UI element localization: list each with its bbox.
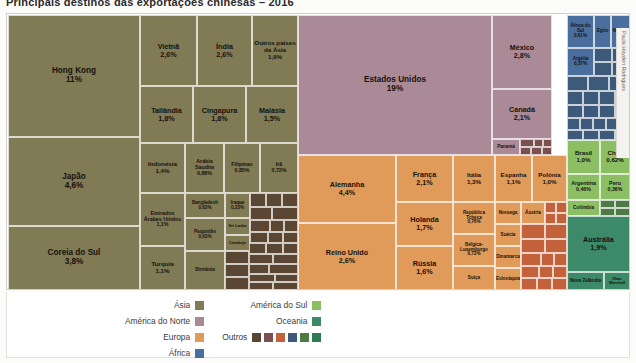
treemap-tile-iraque[interactable]: Iraque0,23% [225,193,250,218]
treemap-tile-af-o23[interactable] [599,130,615,140]
treemap-tile-paquistao[interactable]: Paquistão0,63% [185,218,225,251]
treemap-tile-sa-o1[interactable] [600,200,615,208]
treemap-tile-camboja[interactable]: Camboja [225,235,250,251]
treemap-tile-eu-o9[interactable] [521,253,541,266]
treemap-tile-suecia[interactable]: Suécia [495,224,521,246]
treemap-tile-af-o18[interactable] [593,118,606,130]
treemap-tile-asia-o8[interactable] [284,220,298,232]
treemap-tile-asia-o10[interactable] [268,232,283,243]
treemap-tile-af-o5[interactable] [567,76,588,91]
treemap-tile-suica[interactable]: Suíça [453,266,495,290]
treemap-tile-filipinas[interactable]: Filipinas0,85% [224,143,260,193]
treemap-tile-austria[interactable]: Áustria [521,202,545,224]
treemap-tile-eu-o3[interactable] [545,213,556,224]
treemap-tile-dinamarca[interactable]: Dinamarca [495,246,521,268]
treemap-tile-asia-o11[interactable] [283,232,298,243]
treemap-tile-eu-o16[interactable] [537,278,552,290]
treemap-tile-af-o1[interactable] [594,48,612,62]
treemap-tile-canada[interactable]: Canadá2,1% [492,89,552,139]
treemap-tile-eu-o14[interactable] [553,266,567,278]
treemap-tile-australia[interactable]: Austrália1,9% [567,216,630,272]
treemap-tile-polonia[interactable]: Polônia1,0% [532,155,567,202]
treemap-tile-asia-o21[interactable] [269,264,298,274]
treemap-tile-asia-o23[interactable] [275,274,298,282]
treemap-tile-noruega[interactable]: Noruega [495,202,521,224]
treemap-tile-belgica[interactable]: Bélgica-Luxemburgo0,73% [453,234,495,266]
treemap-tile-asia-o15[interactable] [283,243,298,254]
treemap-tile-holanda[interactable]: Holanda1,7% [396,202,453,246]
treemap-tile-eu-o15[interactable] [521,278,537,290]
treemap-tile-argentina[interactable]: Argentina0,46% [567,174,600,200]
treemap-tile-na-o2[interactable] [534,139,543,147]
treemap-tile-asia-o25[interactable] [273,282,298,290]
treemap-tile-asia-o12[interactable] [225,251,249,264]
treemap-tile-argelia[interactable]: Argélia0,37% [567,48,594,76]
treemap-tile-coreia-sul[interactable]: Coreia do Sul3,8% [8,226,140,290]
treemap-tile-outros-asia[interactable]: Outros países da Ásia1,9% [252,15,298,86]
treemap-tile-africa-sul[interactable]: África do Sul0,61% [567,15,594,48]
treemap-tile-brasil[interactable]: Brasil1,0% [567,140,600,174]
treemap-tile-asia-o14[interactable] [266,243,283,254]
treemap-tile-asia-o7[interactable] [270,220,284,232]
treemap-tile-vietna[interactable]: Vietnã2,6% [140,15,197,86]
treemap-tile-asia-o16[interactable] [225,264,249,277]
treemap-tile-eu-o12[interactable] [521,266,539,278]
treemap-tile-asia-o3[interactable] [282,193,298,207]
treemap-tile-af-o16[interactable] [567,118,580,130]
legend-item-américa-do-sul[interactable]: América do Sul [222,299,321,311]
treemap-tile-eu-o8[interactable] [545,239,567,253]
treemap-tile-asia-o19[interactable] [225,277,249,290]
treemap-tile-sa-o2[interactable] [615,200,630,208]
treemap-tile-asia-o24[interactable] [249,282,273,290]
treemap-tile-af-o9[interactable] [583,91,599,105]
treemap-tile-asia-o17[interactable] [249,254,273,264]
treemap-tile-japao[interactable]: Japão4,6% [8,137,140,226]
treemap-tile-asia-o9[interactable] [250,232,268,243]
treemap-tile-eu-o13[interactable] [539,266,553,278]
legend-item-oceania[interactable]: Oceania [222,315,321,327]
treemap-tile-asia-o13[interactable] [249,243,266,254]
treemap-tile-eu-o7[interactable] [521,239,545,253]
treemap-tile-asia-o22[interactable] [249,274,275,282]
treemap-tile-alemanha[interactable]: Alemanha4,4% [298,155,396,223]
treemap-tile-colombia[interactable]: Colômbia [567,200,600,216]
treemap-tile-espanha[interactable]: Espanha1,1% [495,155,532,202]
treemap-tile-af-o17[interactable] [580,118,593,130]
treemap-tile-af-o10[interactable] [599,91,615,105]
treemap-tile-cingapura[interactable]: Cingapura1,8% [193,86,246,143]
treemap-tile-panama[interactable]: Panamá [492,139,520,155]
treemap-tile-eu-o17[interactable] [552,278,567,290]
treemap-tile-birmania[interactable]: Birmânia [185,251,225,290]
treemap-tile-asia-o1[interactable] [250,193,266,207]
treemap-tile-eu-o1[interactable] [545,202,556,213]
legend-item-áfrica[interactable]: África [125,347,204,359]
treemap-tile-ilhas-marshall[interactable]: Ilhas Marshall [604,272,630,290]
legend-item-ásia[interactable]: Ásia [125,299,204,311]
treemap-tile-sa-o4[interactable] [615,208,630,216]
legend-item-outros[interactable]: Outros [222,331,321,343]
treemap-tile-na-o1[interactable] [520,139,534,147]
treemap-tile-estados-unidos[interactable]: Estados Unidos19% [298,15,492,155]
treemap-tile-af-o8[interactable] [567,91,583,105]
treemap-tile-af-o14[interactable] [599,105,615,118]
legend-item-américa-do-norte[interactable]: América do Norte [125,315,204,327]
treemap-tile-franca[interactable]: França2,1% [396,155,453,202]
treemap-tile-arabia[interactable]: Arábia Saudita0,86% [185,143,224,193]
treemap-tile-na-o6[interactable] [542,147,552,155]
treemap-tile-eu-o11[interactable] [554,253,567,266]
treemap-tile-asia-o5[interactable] [272,207,298,220]
treemap-tile-indonesia[interactable]: Indonésia1,4% [140,143,185,193]
treemap-tile-ira[interactable]: Irã0,72% [260,143,298,193]
treemap-tile-italia[interactable]: Itália1,3% [453,155,495,202]
treemap-tile-srilanka[interactable]: Sri Lanka [225,218,250,235]
treemap-tile-na-o3[interactable] [543,139,552,147]
treemap-tile-eu-o6[interactable] [545,224,567,239]
treemap-tile-russia[interactable]: Rússia1,6% [396,246,453,290]
treemap-tile-hong-kong[interactable]: Hong Kong11% [8,15,140,137]
treemap-tile-egito[interactable]: Egito [594,15,611,48]
treemap-tile-af-o12[interactable] [567,105,583,118]
treemap-tile-rep-tcheca[interactable]: República Tcheca0,76% [453,202,495,234]
treemap-tile-turquia[interactable]: Turquia1,1% [140,246,185,290]
treemap-tile-eu-o4[interactable] [556,213,567,224]
treemap-tile-na-o4[interactable] [520,147,531,155]
